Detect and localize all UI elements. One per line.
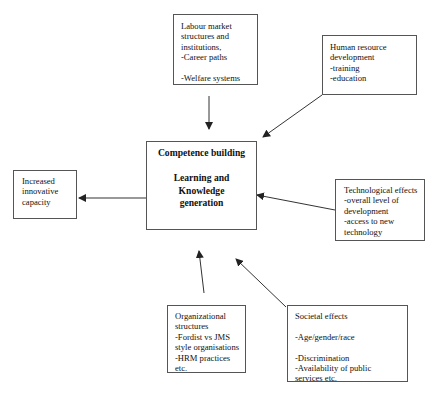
box-line: capacity [22, 197, 70, 207]
organizational-structures-box: Organizational structures -Fordist vs JM… [167, 305, 246, 373]
box-line: Technological effects [344, 185, 418, 195]
competence-building-box: Competence building Learning and Knowled… [146, 141, 257, 230]
box-line: Societal effects [295, 311, 401, 321]
arrow-societal-to-central [236, 259, 286, 307]
technological-effects-box: Technological effects -overall level of … [335, 179, 425, 241]
box-line: -training [330, 63, 410, 73]
central-title: Competence building [151, 147, 252, 160]
box-line: -Welfare systems [181, 73, 251, 83]
box-line [295, 342, 401, 352]
central-spacer [151, 160, 252, 173]
increased-innovative-capacity-box: Increased innovative capacity [13, 170, 77, 219]
box-line: -education [330, 73, 410, 83]
box-line: technology [344, 227, 418, 237]
societal-effects-box: Societal effects -Age/gender/race -Discr… [287, 305, 408, 382]
labour-market-box: Labour market structures and institution… [173, 14, 258, 85]
box-line: structures and [181, 31, 251, 41]
box-line: development [330, 52, 410, 62]
box-line: -Fordist vs JMS [175, 332, 239, 342]
box-line: development [344, 206, 418, 216]
human-resource-box: Human resource development -training -ed… [322, 35, 417, 95]
arrow-org-to-central [199, 251, 204, 293]
box-line: Increased [22, 176, 70, 186]
box-line: Human resource [330, 42, 410, 52]
box-line: -Career paths [181, 52, 251, 62]
arrow-hr-to-central [263, 95, 322, 137]
box-line: -Availability of public [295, 363, 401, 373]
central-line: generation [151, 197, 252, 210]
box-line [181, 63, 251, 73]
central-line: Learning and [151, 172, 252, 185]
box-line: -Discrimination [295, 353, 401, 363]
box-line: -overall level of [344, 195, 418, 205]
box-line: -HRM practices [175, 353, 239, 363]
box-line: Organizational [175, 311, 239, 321]
box-line: -access to new [344, 216, 418, 226]
arrow-tech-to-central [257, 195, 335, 210]
box-line: innovative [22, 186, 70, 196]
box-line: -Age/gender/race [295, 332, 401, 342]
box-line: structures [175, 321, 239, 331]
box-line [295, 321, 401, 331]
box-line: services etc. [295, 373, 401, 383]
box-line: Labour market [181, 21, 251, 31]
box-line: style organisations [175, 342, 239, 352]
box-line: etc. [175, 363, 239, 373]
central-line: Knowledge [151, 185, 252, 198]
box-line: institutions, [181, 42, 251, 52]
